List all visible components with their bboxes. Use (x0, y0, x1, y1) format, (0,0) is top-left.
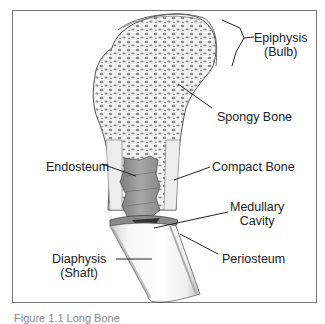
label-endosteum: Endosteum (46, 160, 109, 174)
label-epiphysis-line1: Epiphysis (254, 31, 308, 45)
label-epiphysis: Epiphysis (Bulb) (254, 31, 308, 59)
figure-caption: Figure 1.1 Long Bone (14, 312, 120, 324)
label-medullary-line2: Cavity (230, 214, 284, 228)
label-compact-bone: Compact Bone (212, 160, 295, 174)
label-medullary-cavity: Medullary Cavity (230, 200, 284, 228)
medullary-cavity-region (120, 156, 160, 218)
label-diaphysis: Diaphysis (Shaft) (52, 252, 106, 280)
label-spongy-bone: Spongy Bone (217, 110, 292, 124)
label-periosteum: Periosteum (222, 252, 285, 266)
diaphysis-region (110, 223, 200, 302)
label-epiphysis-line2: (Bulb) (254, 45, 308, 59)
label-medullary-line1: Medullary (230, 200, 284, 214)
label-diaphysis-line2: (Shaft) (52, 266, 106, 280)
label-diaphysis-line1: Diaphysis (52, 252, 106, 266)
